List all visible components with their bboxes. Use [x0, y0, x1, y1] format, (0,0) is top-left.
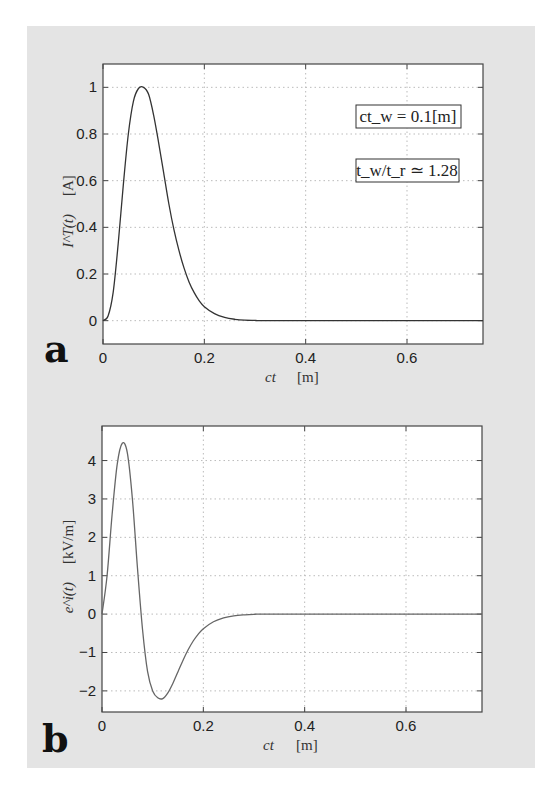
- plot-b-xtick-label: 0.2: [193, 717, 214, 734]
- plot-b-xlabel-unit: [m]: [296, 737, 318, 753]
- plot-b: 00.20.40.6−2−101234 b ct [m] e^i(t) [kV/…: [42, 426, 482, 761]
- plot-b-ytick-label: 0: [88, 605, 96, 622]
- plot-b-ylabel: e^i(t) [kV/m]: [60, 520, 77, 613]
- plot-b-xtick-label: 0.4: [294, 717, 315, 734]
- plot-a-ylabel-var: I^T(t): [60, 214, 77, 249]
- panel-label-b: b: [42, 716, 69, 761]
- plot-a-xtick-label: 0.4: [295, 349, 316, 366]
- plot-a-ytick-label: 0.4: [76, 218, 97, 235]
- plot-a-ylabel: I^T(t) [A]: [60, 175, 77, 249]
- annotation-ctw: ct_w = 0.1[m]: [360, 107, 457, 126]
- plot-a-xtick-label: 0: [99, 349, 107, 366]
- plot-a-ytick-label: 0.8: [76, 125, 97, 142]
- plot-a-ytick-label: 0.6: [76, 172, 97, 189]
- plot-b-ytick-label: −1: [79, 643, 96, 660]
- plot-b-ylabel-var: e^i(t): [60, 582, 77, 613]
- plot-b-ytick-label: 2: [88, 528, 96, 545]
- figure: 00.20.40.600.20.40.60.81 ct_w = 0.1[m] t…: [0, 0, 560, 797]
- plot-a-ytick-label: 1: [89, 78, 97, 95]
- plot-b-xtick-label: 0: [98, 717, 106, 734]
- plot-a-ytick-label: 0.2: [76, 265, 97, 282]
- plot-a-xlabel-var: ct: [265, 369, 277, 385]
- plot-a-xtick-label: 0.6: [397, 349, 418, 366]
- plot-a-xlabel: ct [m]: [265, 369, 319, 385]
- plot-b-xlabel: ct [m]: [263, 737, 318, 753]
- plot-b-xtick-label: 0.6: [396, 717, 417, 734]
- plot-b-ytick-label: 3: [88, 490, 96, 507]
- plot-a-xlabel-unit: [m]: [297, 369, 319, 385]
- plot-b-ytick-label: −2: [79, 682, 96, 699]
- plot-a-xtick-label: 0.2: [194, 349, 215, 366]
- plot-b-ylabel-unit: [kV/m]: [60, 520, 76, 564]
- panel-label-a: a: [44, 326, 69, 371]
- plot-a: 00.20.40.600.20.40.60.81 ct_w = 0.1[m] t…: [44, 64, 483, 385]
- plot-a-ytick-label: 0: [89, 312, 97, 329]
- plot-b-ytick-label: 4: [88, 452, 96, 469]
- plot-b-frame: [102, 426, 482, 712]
- plot-b-ytick-label: 1: [88, 567, 96, 584]
- plot-a-ylabel-unit: [A]: [60, 175, 76, 196]
- plot-b-xlabel-var: ct: [263, 737, 275, 753]
- annotation-ratio: t_w/t_r ≃ 1.28: [356, 161, 457, 180]
